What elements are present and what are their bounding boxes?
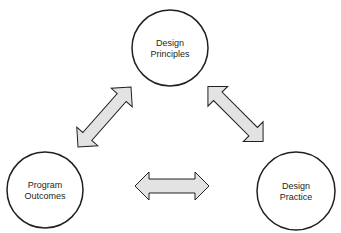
node-label-line2: Outcomes (24, 191, 66, 201)
node-label-line1: Design (156, 38, 184, 48)
node-program-outcomes: Program Outcomes (7, 152, 83, 228)
double-arrow-outcomes-practice-icon (135, 172, 209, 200)
node-label-line1: Program (28, 180, 63, 190)
node-design-practice: Design Practice (257, 152, 335, 230)
node-design-principles: Design Principles (132, 10, 208, 86)
node-label-line2: Practice (280, 192, 313, 202)
node-label-line1: Design (282, 181, 310, 191)
cycle-diagram: Design Principles Program Outcomes Desig… (0, 0, 341, 233)
node-label-line2: Principles (150, 49, 190, 59)
double-arrow-principles-practice-icon (198, 77, 273, 152)
double-arrow-principles-outcomes-icon (68, 78, 142, 156)
